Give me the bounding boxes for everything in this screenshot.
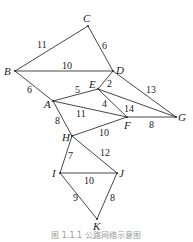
node-point-I [59, 172, 61, 174]
edge-weight-J-K: 8 [110, 192, 115, 203]
node-point-D [112, 70, 114, 72]
edge-weight-H-F: 10 [99, 127, 109, 138]
edge-weight-C-D: 6 [102, 40, 107, 51]
node-label-E: E [88, 78, 96, 90]
edge-H-J [72, 136, 117, 173]
graph-nodes: CBDEAFGHIJK [4, 12, 186, 232]
node-label-F: F [123, 119, 131, 131]
edge-weights: 11610621354141188107121098 [27, 39, 156, 203]
node-label-H: H [61, 131, 71, 143]
edge-weight-A-E: 5 [75, 84, 80, 95]
edge-weight-E-G: 14 [124, 103, 134, 114]
edge-weight-H-I: 7 [68, 150, 73, 161]
edge-weight-B-C: 11 [37, 39, 47, 50]
node-point-H [71, 135, 73, 137]
edge-weight-E-F: 4 [102, 98, 107, 109]
node-label-J: J [119, 167, 125, 179]
weighted-graph-diagram: 11610621354141188107121098 CBDEAFGHIJK 图… [0, 0, 193, 242]
node-label-A: A [43, 98, 51, 110]
node-label-C: C [83, 12, 91, 24]
edge-weight-B-D: 10 [62, 60, 72, 71]
edge-B-C [15, 26, 88, 71]
edge-weight-D-E: 2 [107, 78, 112, 89]
node-point-F [126, 116, 128, 118]
node-point-A [52, 100, 54, 102]
edge-weight-B-A: 6 [27, 84, 32, 95]
node-label-I: I [51, 167, 57, 179]
edge-weight-A-H: 8 [55, 115, 60, 126]
node-point-G [175, 116, 177, 118]
edge-D-G [113, 71, 176, 117]
edge-weight-D-G: 13 [146, 84, 156, 95]
edge-weight-A-F: 11 [76, 108, 86, 119]
edge-weight-H-J: 12 [100, 147, 110, 158]
edge-weight-F-G: 8 [149, 119, 154, 130]
figure-caption: 图 1.1.1 公路网络示意图 [51, 230, 140, 240]
edge-weight-I-J: 10 [84, 175, 94, 186]
edge-weight-I-K: 9 [73, 192, 78, 203]
node-point-C [87, 25, 89, 27]
node-label-B: B [4, 65, 11, 77]
node-label-D: D [115, 64, 124, 76]
node-label-G: G [178, 111, 186, 123]
node-point-E [97, 88, 99, 90]
edge-A-F [53, 101, 127, 117]
node-point-J [116, 172, 118, 174]
node-point-B [14, 70, 16, 72]
edge-B-A [15, 71, 53, 101]
edge-C-D [88, 26, 113, 71]
